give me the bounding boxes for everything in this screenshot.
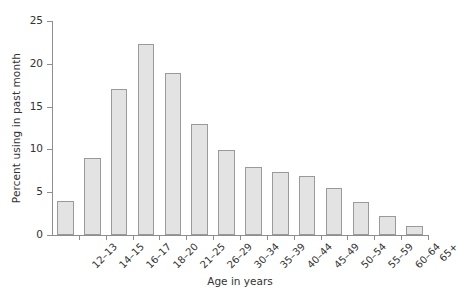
x-axis-tick xyxy=(321,235,322,240)
y-axis-tick-label: 0 xyxy=(36,228,43,241)
bar xyxy=(57,201,74,235)
bar xyxy=(165,73,182,235)
bar xyxy=(299,176,316,235)
y-axis-tick-label: 15 xyxy=(30,100,43,113)
x-axis-tick xyxy=(428,235,429,240)
x-axis-tick xyxy=(347,235,348,240)
bar xyxy=(406,226,423,235)
x-axis-tick xyxy=(186,235,187,240)
x-axis-tick xyxy=(133,235,134,240)
x-axis-tick-label: 40–44 xyxy=(305,241,335,271)
x-axis-tick xyxy=(374,235,375,240)
bar xyxy=(379,216,396,235)
x-axis-tick-label: 12–13 xyxy=(90,241,120,271)
y-axis-tick: 5 xyxy=(47,192,52,193)
bar xyxy=(245,167,262,235)
x-axis-tick xyxy=(240,235,241,240)
bar xyxy=(138,44,155,235)
x-axis-tick xyxy=(213,235,214,240)
x-axis-tick-label: 45–49 xyxy=(332,241,362,271)
bar xyxy=(84,158,101,235)
y-axis-tick-label: 5 xyxy=(36,185,43,198)
y-axis-tick-label: 10 xyxy=(30,142,43,155)
x-axis-tick-label: 65+ xyxy=(437,241,460,264)
x-axis-tick xyxy=(159,235,160,240)
x-axis-tick xyxy=(79,235,80,240)
y-axis-tick: 20 xyxy=(47,64,52,65)
y-axis-tick: 25 xyxy=(47,21,52,22)
y-axis-tick-label: 25 xyxy=(30,14,43,27)
bar xyxy=(326,188,343,235)
x-axis-tick-label: 21–25 xyxy=(198,241,228,271)
y-axis-title: Percent using in past month xyxy=(8,21,24,235)
x-axis-tick-label: 55–59 xyxy=(386,241,416,271)
bar xyxy=(218,150,235,235)
bars-group xyxy=(52,21,428,235)
x-axis-tick xyxy=(106,235,107,240)
bar xyxy=(111,89,128,235)
x-axis-tick xyxy=(267,235,268,240)
y-axis-tick: 0 xyxy=(47,235,52,236)
x-axis-tick-label: 16–17 xyxy=(144,241,174,271)
y-axis-tick-label: 20 xyxy=(30,57,43,70)
x-axis-tick xyxy=(294,235,295,240)
y-axis-tick: 15 xyxy=(47,107,52,108)
bar xyxy=(191,124,208,235)
x-axis-tick-label: 50–54 xyxy=(359,241,389,271)
bar xyxy=(272,172,289,235)
x-axis-tick-label: 18–20 xyxy=(171,241,201,271)
x-axis-tick-label: 35–39 xyxy=(278,241,308,271)
x-axis-tick xyxy=(401,235,402,240)
x-axis-tick-label: 30–34 xyxy=(251,241,281,271)
y-axis-tick: 10 xyxy=(47,149,52,150)
x-axis-tick-label: 26–29 xyxy=(225,241,255,271)
bar xyxy=(353,202,370,235)
x-axis-tick-label: 14–15 xyxy=(117,241,147,271)
plot-area: 0510152025 xyxy=(52,21,428,235)
x-axis-title: Age in years xyxy=(52,274,428,288)
